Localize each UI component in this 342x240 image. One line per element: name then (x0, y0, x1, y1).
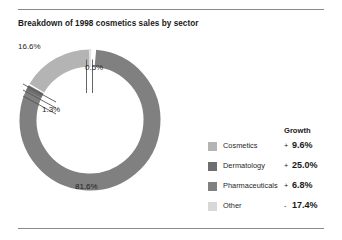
chart-title: Breakdown of 1998 cosmetics sales by sec… (18, 19, 199, 28)
legend-label-dermatology: Dermatology (223, 161, 265, 170)
legend-growth-dermatology: 25.0% (292, 160, 318, 170)
legend-label-other: Other (223, 201, 241, 210)
chart-figure: Breakdown of 1998 cosmetics sales by sec… (0, 0, 342, 240)
legend-sign-cosmetics: + (284, 141, 288, 150)
donut-svg (12, 30, 190, 210)
top-divider-rule (18, 9, 324, 10)
legend-label-pharmaceuticals: Pharmaceuticals (223, 181, 278, 190)
slice-label-other: 0.5% (85, 63, 103, 72)
legend-swatch-dermatology (208, 162, 217, 171)
legend-growth-pharmaceuticals: 6.8% (292, 180, 313, 190)
legend-sign-other: - (284, 201, 286, 210)
legend-item-dermatology: Dermatology + 25.0% (208, 160, 336, 180)
legend-swatch-cosmetics (208, 142, 217, 151)
bottom-divider-rule (18, 228, 324, 229)
legend-label-cosmetics: Cosmetics (223, 141, 258, 150)
legend-swatch-other (208, 202, 217, 211)
legend-item-cosmetics: Cosmetics + 9.6% (208, 140, 336, 160)
legend-item-other: Other - 17.4% (208, 200, 336, 220)
legend-growth-cosmetics: 9.6% (292, 140, 313, 150)
legend-sign-pharmaceuticals: + (284, 181, 288, 190)
legend-swatch-pharmaceuticals (208, 182, 217, 191)
slice-label-cosmetics: 16.6% (18, 42, 41, 51)
legend-sign-dermatology: + (284, 161, 288, 170)
legend-item-pharmaceuticals: Pharmaceuticals + 6.8% (208, 180, 336, 200)
legend-growth-other: 17.4% (292, 200, 318, 210)
legend-growth-header: Growth (284, 126, 311, 135)
slice-label-dermatology: 1.3% (42, 105, 60, 114)
donut-chart (12, 30, 190, 210)
slice-label-pharmaceuticals: 81.6% (75, 182, 98, 191)
